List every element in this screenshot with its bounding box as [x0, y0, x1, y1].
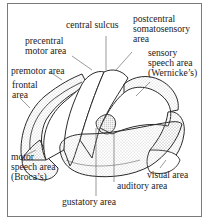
label-line: area	[12, 90, 38, 100]
label-line: area	[133, 34, 190, 44]
label-sensory-speech: sensory speech area (Wernicke’s)	[148, 48, 197, 78]
label-line: (Wernicke’s)	[148, 68, 197, 78]
label-premotor: premotor area	[11, 66, 65, 76]
label-line: (Broca’s)	[11, 172, 55, 182]
label-line: motor area	[25, 46, 66, 56]
label-central-sulcus: central sulcus	[66, 20, 118, 30]
label-precentral-motor: precentral motor area	[25, 36, 66, 56]
label-auditory: auditory area	[117, 181, 167, 191]
label-gustatory: gustatory area	[62, 197, 116, 207]
label-visual: visual area	[147, 170, 188, 180]
label-motor-speech: motor speech area (Broca’s)	[11, 152, 55, 182]
label-postcentral-somatosensory: postcentral somatosensory area	[133, 14, 190, 44]
label-frontal: frontal area	[12, 80, 38, 100]
